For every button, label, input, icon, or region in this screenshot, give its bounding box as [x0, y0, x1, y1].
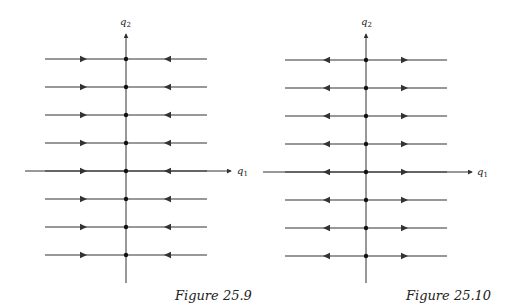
fixed-point [364, 170, 368, 174]
q1-axis-label: q1 [477, 166, 488, 179]
arrow-left-icon [164, 196, 171, 202]
arrow-right-icon [80, 252, 87, 258]
arrow-right-icon [80, 168, 87, 174]
fixed-point [124, 197, 128, 201]
fixed-point [364, 86, 368, 90]
q1-axis-label: q1 [237, 165, 248, 178]
arrow-left-icon [323, 85, 330, 91]
fixed-point [124, 141, 128, 145]
arrow-left-icon [164, 84, 171, 90]
arrow-right-icon [401, 113, 408, 119]
arrow-left-icon [323, 57, 330, 63]
figure-25-9: q2 q1 [25, 16, 248, 283]
arrow-right-icon [401, 225, 408, 231]
arrow-left-icon [323, 253, 330, 259]
q2-axis-label: q2 [120, 16, 131, 29]
arrow-right-icon [80, 84, 87, 90]
fixed-point [364, 142, 368, 146]
arrow-right-icon [80, 56, 87, 62]
figure-caption-25-9: Figure 25.9 [175, 288, 252, 303]
arrow-left-icon [323, 225, 330, 231]
arrow-left-icon [164, 112, 171, 118]
fixed-point [364, 198, 368, 202]
phase-portraits: q2 q1 q2 q1 [0, 0, 509, 306]
arrow-left-icon [164, 56, 171, 62]
arrow-left-icon [323, 141, 330, 147]
arrow-right-icon [401, 197, 408, 203]
fixed-point [124, 85, 128, 89]
arrow-left-icon [164, 168, 171, 174]
arrow-left-icon [323, 169, 330, 175]
arrow-left-icon [323, 113, 330, 119]
arrow-right-icon [401, 141, 408, 147]
fixed-point [364, 254, 368, 258]
arrow-right-icon [401, 169, 408, 175]
fixed-point [124, 169, 128, 173]
fixed-point [124, 57, 128, 61]
fixed-point [364, 114, 368, 118]
arrow-left-icon [323, 197, 330, 203]
fixed-point [364, 58, 368, 62]
fixed-point [124, 113, 128, 117]
figure-25-10: q2 q1 [263, 16, 488, 283]
arrow-right-icon [80, 112, 87, 118]
fixed-point [124, 253, 128, 257]
arrow-left-icon [164, 224, 171, 230]
arrow-right-icon [401, 253, 408, 259]
arrow-left-icon [164, 140, 171, 146]
arrow-right-icon [401, 85, 408, 91]
arrow-right-icon [80, 196, 87, 202]
arrow-right-icon [80, 140, 87, 146]
q2-axis-label: q2 [361, 16, 372, 29]
fixed-point [124, 225, 128, 229]
arrow-right-icon [401, 57, 408, 63]
arrow-left-icon [164, 252, 171, 258]
figure-caption-25-10: Figure 25.10 [406, 288, 491, 303]
arrow-right-icon [80, 224, 87, 230]
fixed-point [364, 226, 368, 230]
